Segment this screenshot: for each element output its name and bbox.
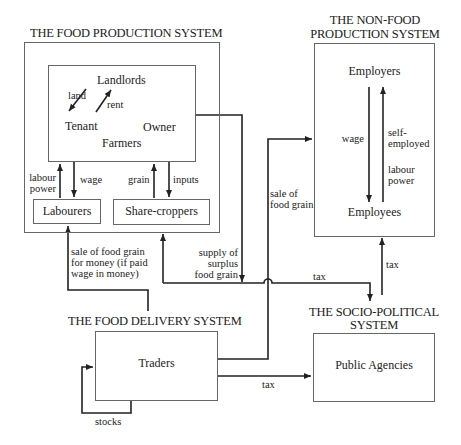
stocks-label: stocks (95, 416, 121, 427)
nonfood-labour-power-label-1: labour (388, 164, 415, 175)
labour-power-label-1: labour (28, 172, 56, 183)
owner-label: Owner (143, 121, 176, 134)
supply-surplus-label-2: surplus (180, 258, 238, 269)
tenant-label: Tenant (65, 120, 97, 133)
sale-for-money-label-3: wage in money) (71, 268, 139, 279)
sale-for-money-label-2: for money (if paid (71, 257, 148, 268)
traders-label: Traders (95, 357, 218, 370)
supply-surplus-label-1: supply of (180, 247, 238, 258)
inputs-label: inputs (173, 174, 199, 185)
employees-label: Employees (314, 206, 435, 219)
supply-surplus-label-3: food grain (180, 269, 238, 280)
non-food-production-title-2: PRODUCTION SYSTEM (308, 28, 442, 41)
food-delivery-title: THE FOOD DELIVERY SYSTEM (68, 315, 242, 328)
food-production-title: THE FOOD PRODUCTION SYSTEM (30, 27, 222, 40)
sale-of-food-grain-label-2: food grain (270, 199, 313, 210)
landlords-label: Landlords (97, 74, 146, 87)
wage-label: wage (80, 174, 102, 185)
sale-of-food-grain-label-1: sale of (270, 188, 298, 199)
non-food-production-title-1: THE NON-FOOD (314, 14, 436, 27)
public-agencies-label: Public Agencies (313, 359, 435, 372)
self-employed-label-1: self- (388, 127, 407, 138)
labourers-label: Labourers (33, 205, 101, 218)
land-label: land (68, 90, 86, 101)
share-croppers-label: Share-croppers (113, 205, 210, 218)
rent-label: rent (107, 99, 123, 110)
sale-for-money-label-1: sale of food grain (71, 246, 145, 257)
labour-power-label-2: power (28, 183, 56, 194)
farmers-label: Farmers (102, 137, 141, 150)
nonfood-labour-power-label-2: power (388, 175, 414, 186)
tax-traders-label: tax (262, 379, 275, 390)
employers-label: Employers (314, 65, 435, 78)
tax-to-nonfood-label: tax (386, 259, 399, 270)
tax-to-socio-label: tax (313, 271, 326, 282)
self-employed-label-2: employed (388, 138, 429, 149)
grain-label: grain (128, 174, 150, 185)
socio-political-title-2: SYSTEM (304, 319, 444, 332)
nonfood-wage-label: wage (330, 133, 364, 144)
